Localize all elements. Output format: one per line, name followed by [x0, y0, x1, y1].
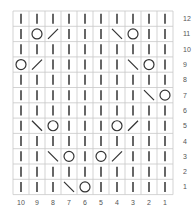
column-label: 6 [83, 199, 87, 206]
ssk-icon [48, 151, 58, 161]
column-label: 7 [67, 199, 71, 206]
knitting-chart: 12111098765432110987654321 [0, 0, 194, 213]
yarn-over-icon [160, 90, 170, 100]
row-label: 12 [183, 15, 191, 22]
k2tog-icon [32, 60, 42, 70]
k2tog-icon [112, 151, 122, 161]
column-label: 8 [51, 199, 55, 206]
row-label: 1 [183, 183, 187, 190]
yarn-over-icon [48, 121, 58, 131]
yarn-over-icon [128, 29, 138, 39]
row-label: 5 [183, 122, 187, 129]
row-label: 2 [183, 168, 187, 175]
ssk-icon [32, 121, 42, 131]
column-label: 10 [17, 199, 25, 206]
ssk-icon [128, 60, 138, 70]
column-label: 9 [35, 199, 39, 206]
column-label: 4 [115, 199, 119, 206]
row-label: 3 [183, 153, 187, 160]
column-label: 3 [131, 199, 135, 206]
ssk-icon [112, 29, 122, 39]
column-label: 5 [99, 199, 103, 206]
yarn-over-icon [32, 29, 42, 39]
column-label: 2 [147, 199, 151, 206]
yarn-over-icon [96, 151, 106, 161]
column-label: 1 [163, 199, 167, 206]
row-label: 6 [183, 107, 187, 114]
row-label: 10 [183, 46, 191, 53]
row-label: 11 [183, 30, 190, 37]
yarn-over-icon [64, 151, 74, 161]
row-label: 8 [183, 76, 187, 83]
k2tog-icon [48, 29, 58, 39]
ssk-icon [144, 90, 154, 100]
row-label: 9 [183, 61, 187, 68]
row-label: 4 [183, 138, 187, 145]
yarn-over-icon [144, 60, 154, 70]
yarn-over-icon [16, 60, 26, 70]
row-label: 7 [183, 92, 187, 99]
k2tog-icon [128, 121, 138, 131]
yarn-over-icon [80, 182, 90, 192]
yarn-over-icon [112, 121, 122, 131]
ssk-icon [64, 182, 74, 192]
